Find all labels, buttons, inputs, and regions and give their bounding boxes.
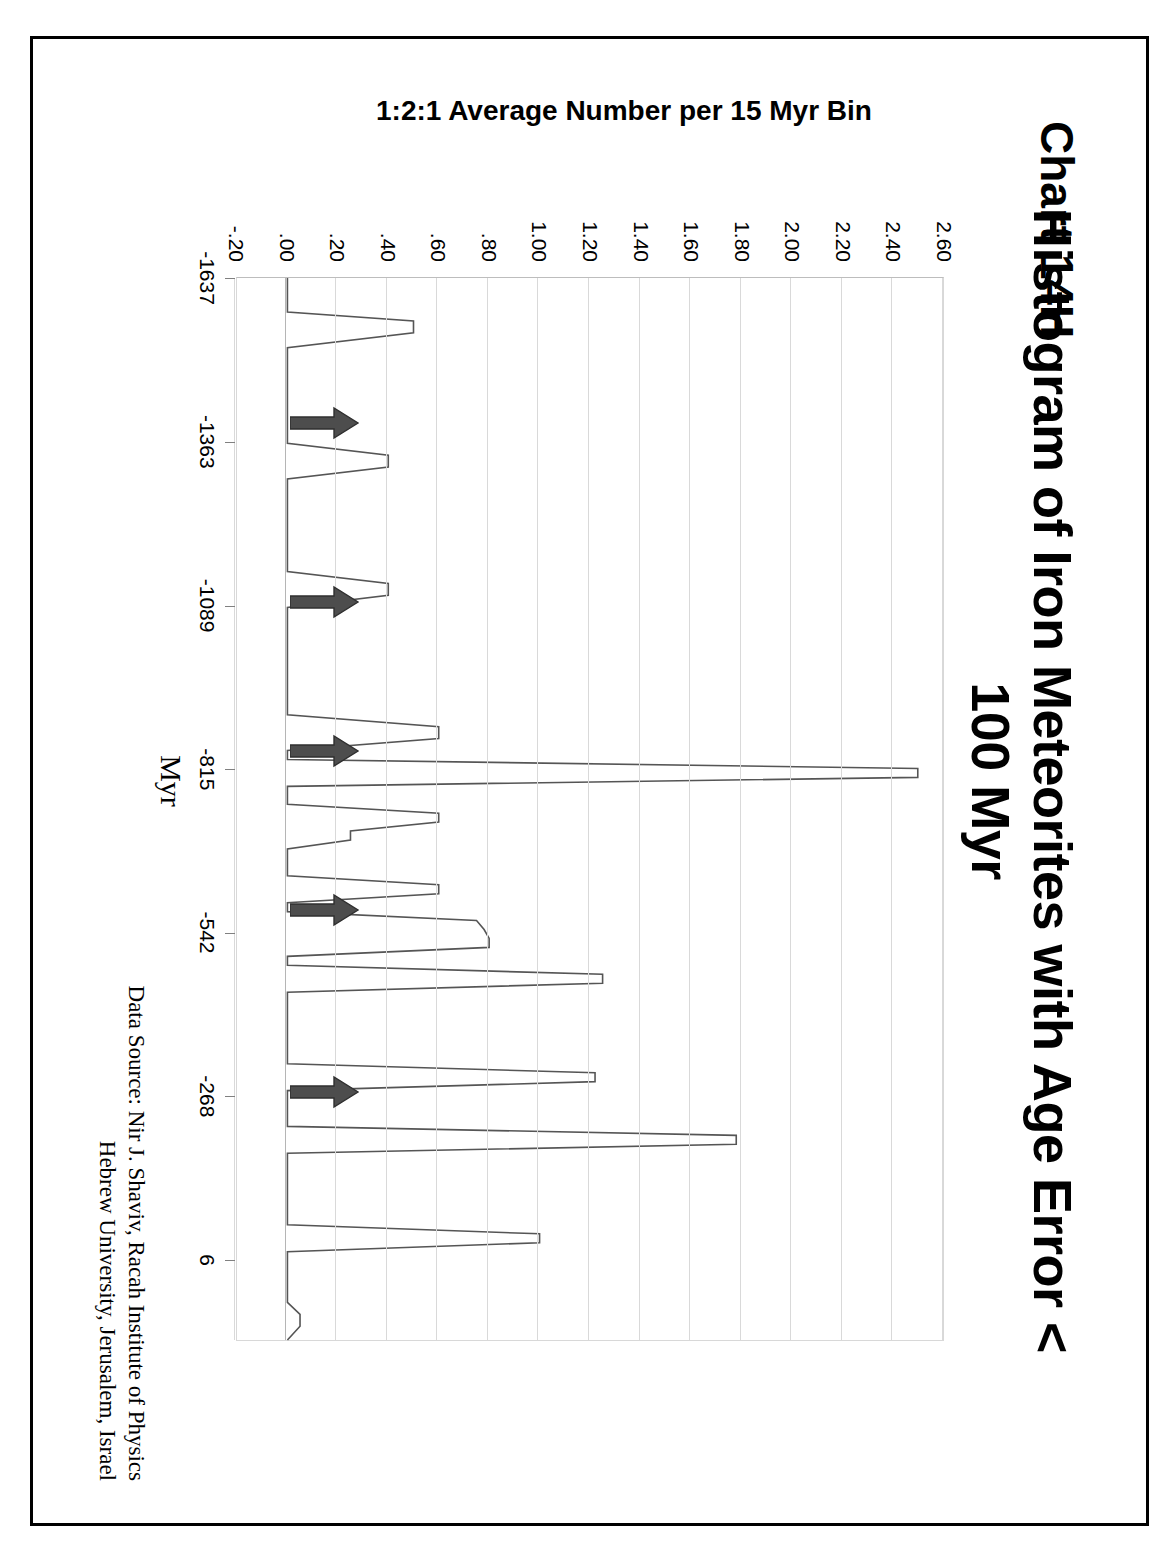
marker-arrow-2-icon (285, 585, 359, 619)
x-axis-tick-mark (225, 606, 235, 607)
y-axis-tick-label: 1.80 (729, 142, 753, 262)
chart-canvas: Chart 14H Histogram of Iron Meteorites w… (70, 81, 1110, 1481)
data-source-line-1: Data Source: Nir J. Shaviv, Racah Instit… (121, 601, 150, 1481)
x-axis-tick-mark (225, 933, 235, 934)
gridline-y (689, 278, 690, 1340)
page-root: Chart 14H Histogram of Iron Meteorites w… (0, 0, 1173, 1554)
y-axis-tick-label: .00 (274, 142, 298, 262)
x-axis-tick-mark (225, 278, 235, 279)
chart-title: Histogram of Iron Meteorites with Age Er… (960, 201, 1084, 1361)
x-axis-tick-mark (225, 1260, 235, 1261)
x-axis-tick-label: -1637 (195, 208, 219, 348)
y-axis-tick-label: 1.20 (578, 142, 602, 262)
x-axis-tick-label: -1363 (195, 372, 219, 512)
y-axis-tick-label: -.20 (224, 142, 248, 262)
data-source-note: Data Source: Nir J. Shaviv, Racah Instit… (92, 601, 150, 1481)
y-axis-tick-label: 2.60 (932, 142, 956, 262)
gridline-y (840, 278, 841, 1340)
y-axis-tick-label: 1.00 (527, 142, 551, 262)
gridline-y (436, 278, 437, 1340)
x-axis-tick-label: -815 (195, 699, 219, 839)
series-line (287, 278, 917, 1340)
marker-arrow-5-icon (285, 1075, 359, 1109)
gridline-y (942, 278, 943, 1340)
y-axis-tick-label: 1.40 (628, 142, 652, 262)
marker-arrow-4-icon (285, 893, 359, 927)
figure-frame: Chart 14H Histogram of Iron Meteorites w… (30, 36, 1149, 1526)
plot-area: -.20.00.20.40.60.801.001.201.401.601.802… (236, 277, 944, 1341)
rotated-chart-wrapper: Chart 14H Histogram of Iron Meteorites w… (33, 39, 1146, 1523)
gridline-y (790, 278, 791, 1340)
y-axis-tick-label: .80 (476, 142, 500, 262)
y-axis-tick-label: 2.40 (881, 142, 905, 262)
gridline-y (537, 278, 538, 1340)
x-axis-title: Myr (154, 641, 188, 921)
y-axis-tick-label: 2.20 (830, 142, 854, 262)
x-axis-tick-label: 6 (195, 1190, 219, 1330)
x-axis-tick-label: -1089 (195, 536, 219, 676)
gridline-y (588, 278, 589, 1340)
y-axis-tick-label: .60 (426, 142, 450, 262)
marker-arrow-1-icon (285, 406, 359, 440)
gridline-y (234, 278, 235, 1340)
gridline-y (638, 278, 639, 1340)
y-axis-title: 1:2:1 Average Number per 15 Myr Bin (264, 95, 984, 127)
gridline-y (486, 278, 487, 1340)
x-axis-tick-mark (225, 1096, 235, 1097)
marker-arrow-3-icon (285, 734, 359, 768)
y-axis-tick-label: 1.60 (679, 142, 703, 262)
x-axis-tick-mark (225, 769, 235, 770)
y-axis-tick-label: .20 (325, 142, 349, 262)
x-axis-tick-label: -268 (195, 1026, 219, 1166)
gridline-y (385, 278, 386, 1340)
data-source-line-2: Hebrew University, Jerusalem, Israel (92, 601, 121, 1481)
x-axis-tick-label: -542 (195, 863, 219, 1003)
gridline-y (739, 278, 740, 1340)
y-axis-tick-label: 2.00 (780, 142, 804, 262)
gridline-y (891, 278, 892, 1340)
y-axis-tick-label: .40 (375, 142, 399, 262)
x-axis-tick-mark (225, 442, 235, 443)
